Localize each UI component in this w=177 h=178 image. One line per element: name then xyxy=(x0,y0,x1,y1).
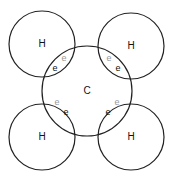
electron-label: e xyxy=(63,107,68,117)
hydrogen-top-right: H e e xyxy=(98,13,164,79)
electron-label: e xyxy=(52,63,57,73)
electron-label-light: e xyxy=(106,53,111,63)
electron-label-light: e xyxy=(54,97,59,107)
carbon-label: C xyxy=(83,85,90,96)
methane-electron-diagram: C H e e H e e H e e H e e xyxy=(0,0,177,178)
electron-label: e xyxy=(115,63,120,73)
electron-label: e xyxy=(105,107,110,117)
electron-label-light: e xyxy=(61,53,66,63)
hydrogen-label: H xyxy=(38,38,45,49)
hydrogen-bottom-right: H e e xyxy=(98,97,164,170)
hydrogen-label: H xyxy=(127,131,134,142)
electron-label-light: e xyxy=(114,97,119,107)
hydrogen-bottom-left: H e e xyxy=(9,97,75,170)
hydrogen-top-left: H e e xyxy=(9,11,75,77)
hydrogen-label: H xyxy=(38,131,45,142)
hydrogen-label: H xyxy=(127,40,134,51)
